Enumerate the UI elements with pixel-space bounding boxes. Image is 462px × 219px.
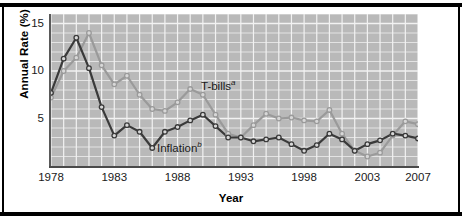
y-axis-tick-5: 5	[38, 112, 44, 124]
y-axis-tick-10: 10	[31, 64, 44, 76]
x-axis-tick-1988: 1988	[156, 171, 200, 183]
figure-frame-left-rule	[2, 3, 4, 216]
x-axis-line	[49, 166, 419, 168]
x-axis-tick-1978: 1978	[29, 171, 73, 183]
x-axis-tick-1998: 1998	[282, 171, 326, 183]
series-label-tbills-footnote: a	[231, 78, 235, 87]
figure-frame-top-rule	[0, 3, 462, 7]
y-axis-tick-15: 15	[31, 17, 44, 29]
figure-frame-right-rule	[458, 3, 460, 216]
x-axis-tick-1983: 1983	[92, 171, 136, 183]
x-axis-title: Year	[0, 192, 462, 204]
series-label-tbills: T-billsa	[201, 78, 235, 92]
x-axis-tick-2007: 2007	[396, 171, 440, 183]
series-label-inflation-text: Inflation	[157, 142, 197, 154]
figure-frame-bottom-rule	[0, 212, 462, 216]
y-axis-tick-labels: 15 10 5	[8, 0, 44, 219]
x-axis-tick-2003: 2003	[345, 171, 389, 183]
x-axis-tick-1993: 1993	[219, 171, 263, 183]
figure-container: Annual Rate (%) 15 10 5 1978 1983 1988 1…	[0, 0, 462, 219]
series-label-inflation-footnote: b	[197, 140, 201, 149]
series-label-tbills-text: T-bills	[201, 80, 231, 92]
series-label-inflation: Inflationb	[157, 140, 202, 154]
